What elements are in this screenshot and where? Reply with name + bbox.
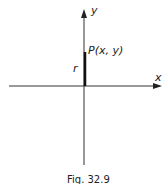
segment-label: r — [73, 63, 78, 74]
y-axis-arrow-icon — [81, 9, 87, 18]
figure-caption: Fig. 32.9 — [67, 175, 110, 184]
coordinate-diagram — [0, 0, 165, 184]
point-label: P(x, y) — [88, 45, 123, 56]
y-axis-label: y — [91, 5, 98, 16]
x-axis-label: x — [155, 72, 162, 83]
